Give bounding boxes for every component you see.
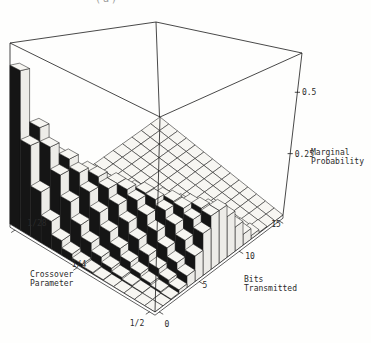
crossover-tick-label: 1/28	[27, 219, 46, 228]
figure-caption-partial: (a)	[95, 0, 135, 5]
bits-tick-label: 10	[245, 252, 255, 261]
x-axis-title: Transmitted	[244, 284, 297, 293]
bar-front-face	[227, 211, 235, 257]
crossover-tick-mark	[146, 312, 150, 315]
bar-side-face	[10, 65, 20, 230]
figure-caption-text: (a)	[95, 0, 135, 4]
crossover-tick-label: 1/2	[130, 319, 145, 328]
z-axis-title: Marginal	[311, 148, 350, 157]
bits-tick-mark	[159, 312, 163, 315]
bar-front-face	[219, 205, 227, 264]
box-back-vertical-edge	[156, 22, 160, 117]
box-top-front-left-edge	[10, 43, 160, 117]
bits-tick-label: 0	[165, 320, 170, 329]
figure-page: (a) 1/21/41/280510150.250.5MarginalProba…	[0, 0, 371, 343]
bits-tick-mark	[239, 251, 243, 254]
bits-tick-label: 15	[271, 220, 281, 229]
z-axis-title: Probability	[311, 157, 364, 166]
box-right-vertical-edge	[283, 53, 302, 215]
crossover-tick-mark	[11, 230, 15, 233]
y-axis-title: Crossover	[30, 270, 74, 279]
box-top-left-edge	[10, 22, 156, 43]
x-axis-title: Bits	[244, 275, 263, 284]
bar-front-face	[211, 211, 219, 270]
crossover-tick-label: 1/4	[72, 260, 87, 269]
bits-tick-label: 5	[203, 281, 208, 290]
marginal-probability-bar3d-chart: 1/21/41/280510150.250.5MarginalProbabili…	[0, 0, 371, 343]
box-top-right-edge	[156, 22, 302, 53]
bar-side-face	[31, 186, 41, 243]
bar-front-face	[203, 228, 211, 276]
box-top-front-right-edge	[160, 53, 302, 117]
probability-tick-label: 0.5	[302, 88, 317, 97]
y-axis-title: Parameter	[30, 279, 74, 288]
